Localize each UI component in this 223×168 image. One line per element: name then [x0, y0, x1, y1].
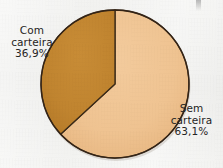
pie-label-sem-carteira-line1: Sem: [164, 103, 219, 115]
pie-label-sem-carteira-value: 63,1%: [164, 126, 219, 138]
pie-label-com-carteira: Com carteira 36,9%: [4, 25, 60, 60]
pie-label-com-carteira-value: 36,9%: [4, 48, 60, 60]
pie-label-sem-carteira: Sem carteira 63,1%: [164, 103, 219, 138]
pie-chart-figure: Com carteira 36,9% Sem carteira 63,1%: [0, 0, 223, 168]
pie-label-com-carteira-line1: Com: [4, 25, 60, 37]
